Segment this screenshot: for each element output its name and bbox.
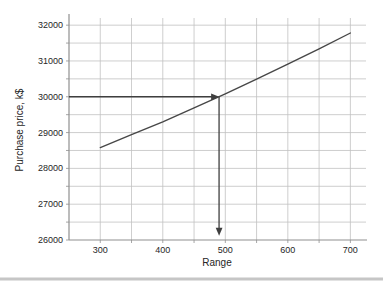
x-tick-label: 700 (343, 245, 358, 255)
x-tick-label: 500 (218, 245, 233, 255)
gridlines (69, 18, 366, 240)
vertical-guide-arrow-head (216, 228, 223, 236)
y-tick-label: 29000 (38, 128, 63, 138)
scan-artifact-band (0, 278, 383, 281)
y-tick-label: 27000 (38, 199, 63, 209)
x-tick-label: 400 (155, 245, 170, 255)
y-tick-label: 30000 (38, 92, 63, 102)
y-tick-label: 32000 (38, 20, 63, 30)
y-axis-title: Purchase price, k$ (14, 88, 25, 171)
x-axis-title: Range (202, 257, 232, 268)
y-tick-label: 28000 (38, 163, 63, 173)
y-tick-label: 26000 (38, 235, 63, 245)
purchase-price-chart: 2600027000280002900030000310003200030040… (0, 0, 383, 283)
y-tick-label: 31000 (38, 56, 63, 66)
x-tick-label: 300 (93, 245, 108, 255)
tick-marks (66, 25, 350, 243)
tick-labels: 2600027000280002900030000310003200030040… (38, 20, 358, 255)
chart-figure: 2600027000280002900030000310003200030040… (0, 0, 383, 283)
x-tick-label: 600 (280, 245, 295, 255)
